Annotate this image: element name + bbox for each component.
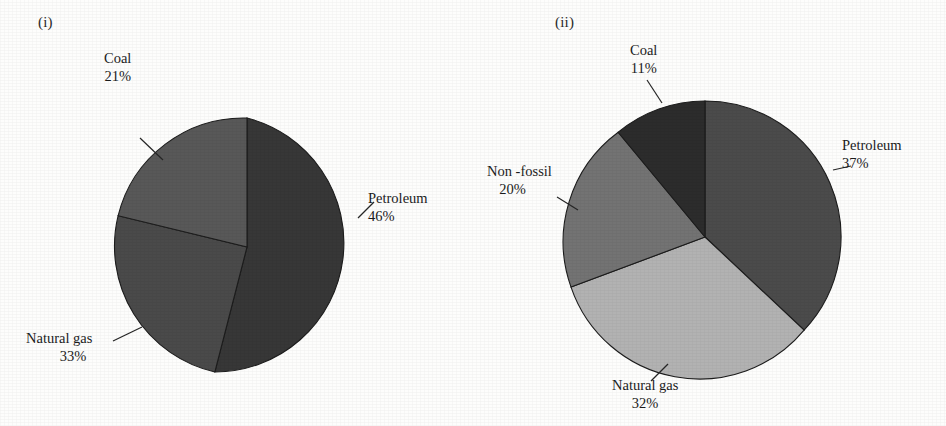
pie-two-svg: [473, 0, 946, 426]
callout-natural-gas-two-name: Natural gas: [612, 377, 678, 393]
callout-petroleum-two: Petroleum 37%: [842, 137, 902, 172]
callout-coal-two: Coal 11%: [630, 42, 657, 77]
callout-coal-one: Coal 21%: [104, 50, 131, 85]
callout-coal-two-value: 11%: [630, 60, 657, 78]
callout-coal-one-name: Coal: [104, 50, 131, 66]
callout-petroleum-two-name: Petroleum: [842, 137, 902, 153]
callout-natural-gas-one-value: 33%: [26, 348, 92, 366]
pie-chart-panel-one: (i) Coal 21% Petroleum 46% Natural gas 3…: [0, 0, 473, 426]
callout-non-fossil-two: Non -fossil 20%: [487, 163, 552, 198]
callout-non-fossil-two-name: Non -fossil: [487, 163, 552, 179]
figure-canvas: (i) Coal 21% Petroleum 46% Natural gas 3…: [0, 0, 946, 426]
callout-natural-gas-two: Natural gas 32%: [612, 377, 678, 412]
callout-petroleum-two-value: 37%: [842, 155, 902, 173]
callout-petroleum-one-name: Petroleum: [368, 190, 428, 206]
leader-line-coal-two: [647, 80, 662, 103]
leader-line-natural-gas-one: [113, 327, 142, 341]
callout-coal-one-value: 21%: [104, 68, 131, 86]
callout-non-fossil-two-value: 20%: [487, 181, 552, 199]
callout-petroleum-one: Petroleum 46%: [368, 190, 428, 225]
callout-natural-gas-two-value: 32%: [612, 395, 678, 413]
callout-petroleum-one-value: 46%: [368, 208, 428, 226]
callout-coal-two-name: Coal: [630, 42, 657, 58]
callout-natural-gas-one: Natural gas 33%: [26, 330, 92, 365]
pie-chart-panel-two: (ii) Coal 11% Non -fossil 20% Petroleum: [473, 0, 946, 426]
callout-natural-gas-one-name: Natural gas: [26, 330, 92, 346]
